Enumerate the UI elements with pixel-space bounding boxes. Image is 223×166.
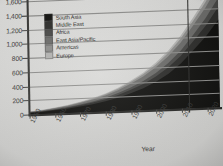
y-tick-label: 1,600 <box>6 0 22 6</box>
y-tick-label: 1,200 <box>6 26 22 34</box>
y-tick-label: 0 <box>20 111 24 118</box>
y-tick-mark <box>23 86 29 87</box>
y-tick-label: 400 <box>12 83 23 91</box>
legend-item-label: Middle East <box>56 21 84 28</box>
legend-swatch <box>45 52 53 60</box>
y-tick-label: 800 <box>12 54 23 62</box>
y-tick-label: 200 <box>12 97 23 105</box>
chart-screenshot: 1,6001,4001,2001,0008006004002000 195019… <box>0 0 223 166</box>
legend-item-label: Africa <box>56 29 70 36</box>
y-tick-label: 1,000 <box>6 40 22 48</box>
y-tick-label: 1,400 <box>6 12 22 20</box>
y-tick-mark <box>21 1 27 2</box>
legend-item-label: Americas <box>56 44 78 51</box>
legend-item-label: Europe <box>56 52 73 59</box>
legend-item-label: South Asia <box>56 13 82 20</box>
chart-perspective-wrapper: 1,6001,4001,2001,0008006004002000 195019… <box>0 0 223 166</box>
x-axis-title: Year <box>141 145 155 153</box>
y-tick-mark <box>22 30 28 31</box>
y-tick-label: 600 <box>12 69 23 77</box>
y-tick-mark <box>22 58 28 59</box>
chart-legend: South AsiaMiddle EastAfricaEast Asia/Pac… <box>44 12 95 60</box>
